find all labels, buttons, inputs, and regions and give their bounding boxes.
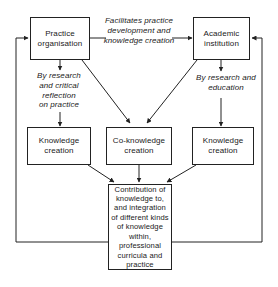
node-co-knowledge-creation[interactable]: Co-knowledge creation: [106, 127, 172, 165]
node-knowledge-creation-left[interactable]: Knowledge creation: [27, 127, 91, 165]
edge-kc-right-to-contribution: [167, 165, 196, 182]
edge-kc-left-to-contribution: [88, 165, 114, 182]
node-contribution[interactable]: Contribution of knowledge to, and integr…: [108, 184, 172, 270]
edge-label-by-research-and-critical-reflection: By research and critical reflection on p…: [26, 71, 92, 110]
edge-label-by-research-and-education: By research and education: [190, 73, 262, 93]
node-academic-institution[interactable]: Academic institution: [193, 17, 250, 60]
diagram-canvas: Practice organisation Academic instituti…: [0, 0, 278, 287]
node-practice-organisation[interactable]: Practice organisation: [30, 17, 90, 60]
node-knowledge-creation-right[interactable]: Knowledge creation: [192, 127, 254, 165]
edge-label-facilitates: Facilitates practice development and kno…: [96, 16, 182, 45]
